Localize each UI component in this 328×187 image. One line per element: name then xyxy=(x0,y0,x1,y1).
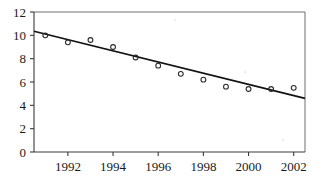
x-tick-label: 1994 xyxy=(100,159,127,174)
x-tick-label: 1998 xyxy=(190,159,216,174)
speck-icon xyxy=(245,72,246,73)
speck-icon xyxy=(22,33,23,34)
y-tick-label: 10 xyxy=(13,28,26,43)
speck-icon xyxy=(175,20,176,21)
y-tick-label: 4 xyxy=(20,98,27,113)
x-tick-label: 2002 xyxy=(281,159,307,174)
chart-page: 024681012 199219941996199820002002 xyxy=(0,0,328,187)
speck-icon xyxy=(25,34,26,35)
y-tick-label: 0 xyxy=(20,145,27,160)
x-tick-label: 1992 xyxy=(55,159,81,174)
scatter-chart: 024681012 199219941996199820002002 xyxy=(0,0,328,187)
speck-icon xyxy=(19,34,20,35)
y-tick-label: 8 xyxy=(20,51,27,66)
x-tick-label: 2000 xyxy=(236,159,262,174)
speck-icon xyxy=(283,140,284,141)
y-tick-label: 12 xyxy=(13,5,26,20)
x-tick-label: 1996 xyxy=(145,159,172,174)
y-tick-label: 6 xyxy=(20,75,27,90)
y-tick-label: 2 xyxy=(20,121,27,136)
